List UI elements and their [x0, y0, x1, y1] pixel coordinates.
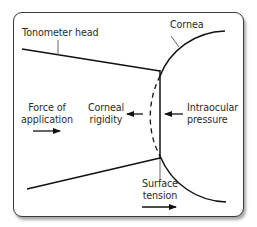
force-of-application-label-line2: application	[20, 114, 74, 126]
surface-tension-label-line2: tension	[140, 190, 180, 202]
intraocular-pressure-label-line1: Intraocular	[187, 102, 238, 114]
cornea-leader	[171, 36, 179, 47]
surface-tension-label-line1: Surface	[140, 178, 180, 190]
cornea-label: Cornea	[170, 19, 204, 31]
corneal-rigidity-label-line1: Corneal	[86, 102, 126, 114]
force-of-application-label-line1: Force of	[20, 102, 74, 114]
tonometer-head-label: Tonometer head	[22, 27, 99, 39]
cornea-arc-upper	[160, 31, 225, 76]
cornea-arc-dashed	[150, 76, 160, 156]
corneal-rigidity-label-line2: rigidity	[86, 114, 126, 126]
intraocular-pressure-label-line2: pressure	[187, 114, 228, 126]
tonometer-head-top-edge	[22, 49, 160, 71]
